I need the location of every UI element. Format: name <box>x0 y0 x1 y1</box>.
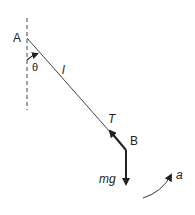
weight-label: mg <box>99 172 116 186</box>
tension-arrow-icon <box>110 131 126 150</box>
acceleration-arrow-icon <box>143 175 171 198</box>
point-b-label: B <box>130 134 138 148</box>
theta-label: θ <box>32 61 38 73</box>
theta-angle-arrow-icon <box>27 54 37 60</box>
pendulum-diagram: A θ l T B mg a <box>0 0 195 215</box>
length-label: l <box>62 63 65 77</box>
tension-label: T <box>108 112 117 126</box>
point-a-label: A <box>13 31 21 45</box>
acceleration-label: a <box>176 168 183 182</box>
